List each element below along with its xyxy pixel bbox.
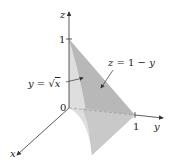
z-tick-label: 1 bbox=[59, 34, 65, 45]
y-axis bbox=[135, 115, 163, 118]
y-tick-label: 1 bbox=[133, 121, 139, 132]
label-plane-equation: z = 1 − y bbox=[107, 57, 155, 68]
origin-label: 0 bbox=[60, 102, 66, 113]
solid-region-diagram: z 1 0 1 y x y = √x z = 1 − y bbox=[0, 0, 171, 167]
x-axis bbox=[17, 108, 69, 155]
x-axis-label: x bbox=[10, 148, 16, 159]
y-axis-label: y bbox=[153, 121, 160, 132]
z-axis-label: z bbox=[59, 9, 66, 20]
label-sqrt-equation: y = √x bbox=[27, 78, 61, 89]
surface-plane-lower bbox=[82, 108, 135, 155]
